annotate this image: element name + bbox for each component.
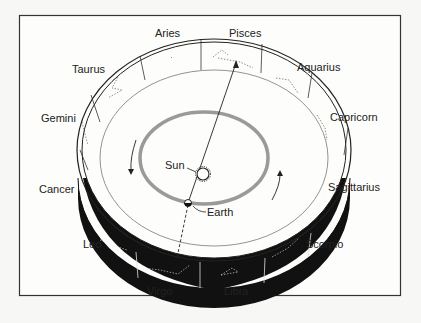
label-virgo: Virgo	[147, 285, 172, 297]
label-aries: Aries	[155, 27, 180, 39]
drum-top-outer	[82, 42, 346, 258]
zodiac-diagram: Aries Pisces Taurus Aquarius Gemini Capr…	[0, 0, 421, 323]
label-earth: Earth	[207, 206, 233, 218]
label-sagittarius: Sagittarius	[328, 181, 380, 193]
label-taurus: Taurus	[72, 63, 105, 75]
label-libra: Libra	[224, 285, 248, 297]
label-sun: Sun	[165, 159, 185, 171]
label-leo: Leo	[83, 238, 101, 250]
zodiac-drum-illustration	[0, 0, 421, 323]
label-pisces: Pisces	[229, 27, 261, 39]
label-scorpio: Scorpio	[306, 238, 343, 250]
label-gemini: Gemini	[41, 112, 76, 124]
label-aquarius: Aquarius	[297, 61, 340, 73]
label-capricorn: Capricorn	[330, 111, 378, 123]
earth-icon	[185, 200, 192, 207]
label-cancer: Cancer	[39, 183, 74, 195]
